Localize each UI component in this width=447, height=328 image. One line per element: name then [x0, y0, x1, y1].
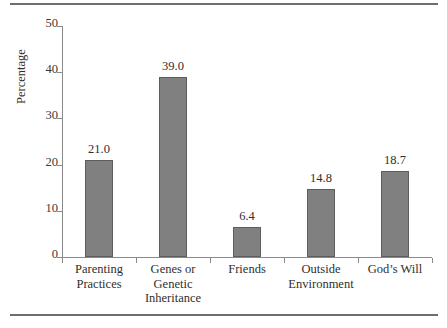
category-label: Genes orGeneticInheritance: [136, 262, 210, 306]
plot-area: 01020304050 21.039.06.414.818.7 Parentin…: [62, 26, 432, 258]
bar[interactable]: [307, 189, 335, 257]
x-tick-mark: [432, 258, 433, 263]
y-axis-title: Percentage: [14, 49, 29, 104]
bar-value-label: 6.4: [217, 210, 277, 223]
bar-value-label: 18.7: [365, 154, 425, 167]
category-label-line: Inheritance: [136, 291, 210, 306]
y-tick-label: 20: [46, 156, 59, 168]
bar-value-label: 21.0: [69, 143, 129, 156]
y-tick-label: 0: [52, 248, 58, 260]
bar-value-label: 39.0: [143, 60, 203, 73]
top-horizontal-rule: [10, 3, 438, 5]
category-label-line: Genes or: [136, 262, 210, 277]
category-label-line: Genetic: [136, 277, 210, 292]
category-label: God’s Will: [358, 262, 432, 277]
bar[interactable]: [159, 77, 187, 257]
category-label-line: Parenting: [62, 262, 136, 277]
category-label-line: God’s Will: [358, 262, 432, 277]
category-label-line: Practices: [62, 277, 136, 292]
bar[interactable]: [85, 160, 113, 257]
category-label-line: Friends: [210, 262, 284, 277]
y-tick-label: 40: [46, 63, 59, 75]
y-axis-line: [62, 26, 63, 258]
y-tick-label: 10: [46, 202, 59, 214]
category-label: Friends: [210, 262, 284, 277]
bottom-horizontal-rule: [10, 314, 438, 316]
bar-value-label: 14.8: [291, 172, 351, 185]
x-axis-line: [62, 257, 432, 258]
figure-container: Percentage 01020304050 21.039.06.414.818…: [0, 0, 447, 328]
category-label-line: Outside: [284, 262, 358, 277]
bar[interactable]: [233, 227, 261, 257]
bar[interactable]: [381, 171, 409, 257]
category-label: OutsideEnvironment: [284, 262, 358, 291]
y-tick-label: 30: [46, 109, 59, 121]
category-label-line: Environment: [284, 277, 358, 292]
category-label: ParentingPractices: [62, 262, 136, 291]
y-tick-label: 50: [46, 17, 59, 29]
